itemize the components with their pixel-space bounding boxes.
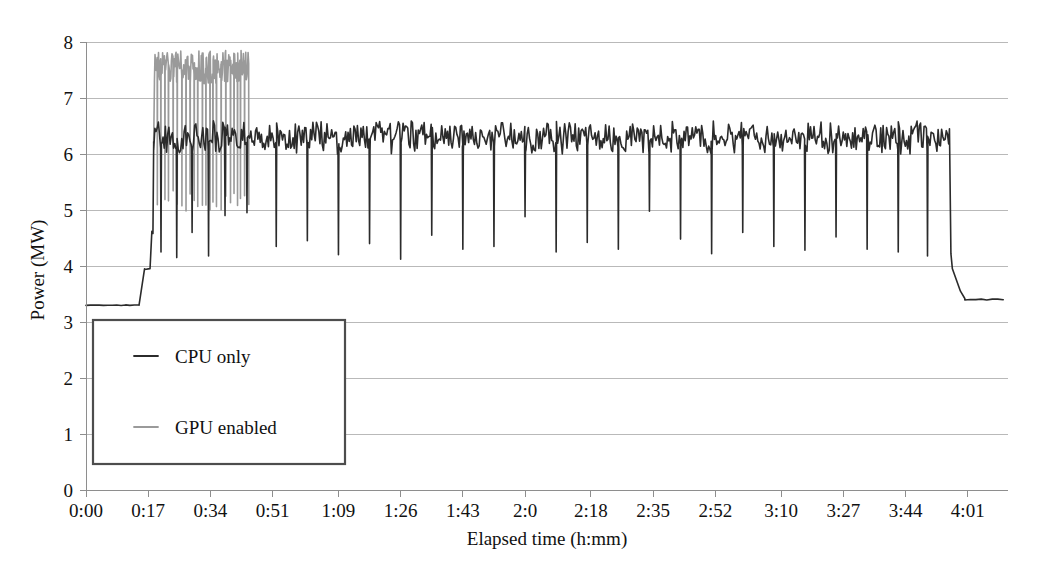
legend-box <box>93 320 345 464</box>
y-tick-label: 5 <box>64 200 74 221</box>
x-tick-label: 2:35 <box>636 500 670 521</box>
y-tick-label: 4 <box>64 256 74 277</box>
x-tick-label: 4:01 <box>951 500 985 521</box>
chart-legend: CPU only GPU enabled <box>93 320 345 464</box>
legend-label-gpu-enabled: GPU enabled <box>175 417 277 438</box>
y-axis-title: Power (MW) <box>27 220 49 321</box>
y-tick-label: 8 <box>64 32 74 53</box>
x-tick-label: 0:17 <box>131 500 165 521</box>
x-tick-label: 2:18 <box>574 500 608 521</box>
x-tick-label: 3:44 <box>889 500 923 521</box>
x-tick-label: 0:00 <box>69 500 103 521</box>
y-tick-label: 2 <box>64 368 74 389</box>
y-tick-label: 6 <box>64 144 74 165</box>
x-tick-label: 3:10 <box>764 500 798 521</box>
y-tick-group: 012345678 <box>64 32 87 501</box>
x-tick-group: 0:000:170:340:511:091:261:432:02:182:352… <box>69 490 985 521</box>
y-tick-label: 3 <box>64 312 74 333</box>
x-tick-label: 3:27 <box>826 500 860 521</box>
series-group <box>86 51 1003 306</box>
x-tick-label: 2:0 <box>513 500 537 521</box>
x-tick-label: 0:51 <box>256 500 290 521</box>
x-axis-title: Elapsed time (h:mm) <box>467 528 627 550</box>
x-tick-label: 1:26 <box>384 500 418 521</box>
power-chart-figure: 012345678 0:000:170:340:511:091:261:432:… <box>0 0 1043 580</box>
y-tick-label: 0 <box>64 480 74 501</box>
x-tick-label: 1:09 <box>322 500 356 521</box>
chart-canvas: 012345678 0:000:170:340:511:091:261:432:… <box>0 0 1043 580</box>
y-tick-label: 1 <box>64 424 74 445</box>
series-line-cpu-only <box>86 121 1003 306</box>
x-tick-label: 1:43 <box>446 500 480 521</box>
y-tick-label: 7 <box>64 88 74 109</box>
x-tick-label: 2:52 <box>698 500 732 521</box>
x-tick-label: 0:34 <box>194 500 228 521</box>
legend-label-cpu-only: CPU only <box>175 346 251 367</box>
